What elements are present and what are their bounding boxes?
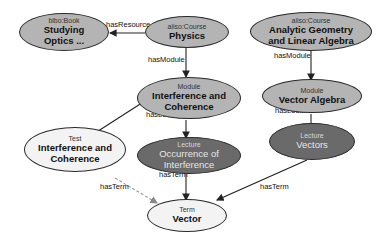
node-name: Vectors (296, 140, 328, 151)
node-name: Analytic Geometry and Linear Algebra (263, 25, 359, 47)
node-geometry[interactable]: aiiso:Course Analytic Geometry and Linea… (250, 12, 372, 51)
node-book[interactable]: bibo:Book Studying Optics ... (19, 13, 109, 51)
node-name: Interference and Coherence (35, 143, 115, 165)
label-test-has-term: hasTerm (100, 182, 129, 191)
node-name: Studying Optics ... (34, 25, 94, 47)
node-name: Interference and Coherence (149, 91, 229, 113)
node-name: Vector Algebra (279, 95, 346, 106)
node-test-interference[interactable]: Test Interference and Coherence (24, 127, 126, 172)
label-lecture-v-has-term: hasTerm (260, 182, 289, 191)
node-physics[interactable]: aiiso:Course Physics (145, 16, 229, 48)
label-geometry-has-module: hasModule (274, 51, 311, 60)
label-physics-has-module: hasModule (148, 55, 185, 64)
node-module-vector-algebra[interactable]: Module Vector Algebra (262, 79, 362, 113)
node-name: Vector (172, 214, 201, 225)
node-module-interference[interactable]: Module Interference and Coherence (137, 77, 241, 119)
node-name: Occurrence of Interference (149, 149, 229, 171)
node-term-vector[interactable]: Term Vector (147, 199, 227, 232)
node-name: Physics (169, 31, 205, 42)
node-lecture-occurrence[interactable]: Lecture Occurrence of Interference (137, 137, 241, 174)
node-lecture-vectors[interactable]: Lecture Vectors (269, 123, 355, 160)
label-has-resource: hasResource (106, 20, 150, 29)
